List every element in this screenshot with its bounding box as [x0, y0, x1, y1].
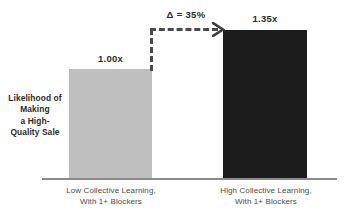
- arrow-head-icon: [212, 22, 225, 37]
- delta-horizontal-dashed-line: [150, 28, 218, 31]
- x-axis-label-line: High Collective Learning,: [196, 186, 336, 197]
- x-axis-label-high: High Collective Learning, With 1+ Blocke…: [196, 186, 336, 207]
- delta-annotation-label: Δ = 35%: [143, 9, 229, 20]
- x-axis-label-line: Low Collective Learning,: [46, 186, 176, 197]
- y-axis-caption-line: a High-: [2, 116, 68, 127]
- bar-value-label-high: 1.35x: [223, 13, 307, 24]
- y-axis-caption-line: Quality Sale: [2, 127, 68, 138]
- y-axis-caption-line: Likelihood of: [2, 93, 68, 104]
- x-axis-baseline: [42, 178, 337, 180]
- bar-low-collective-learning: [69, 69, 152, 178]
- bar-value-label-low: 1.00x: [69, 53, 152, 64]
- delta-vertical-dashed-line: [150, 29, 153, 71]
- bar-high-collective-learning: [223, 30, 307, 178]
- x-axis-label-line: With 1+ Blockers: [196, 197, 336, 208]
- y-axis-caption: Likelihood of Making a High- Quality Sal…: [2, 93, 68, 139]
- x-axis-label-low: Low Collective Learning, With 1+ Blocker…: [46, 186, 176, 207]
- bar-chart: Likelihood of Making a High- Quality Sal…: [0, 0, 352, 219]
- y-axis-caption-line: Making: [2, 104, 68, 115]
- x-axis-label-line: With 1+ Blockers: [46, 197, 176, 208]
